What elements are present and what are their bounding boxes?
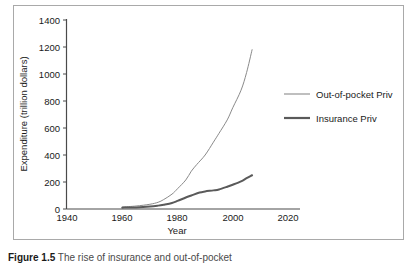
y-tick-label-1200: 1200 [39, 42, 60, 53]
y-tick-label-800: 800 [44, 96, 60, 107]
y-tick-label-600: 600 [44, 123, 60, 134]
x-axis-title: Year [167, 225, 186, 236]
x-tick-label-2000: 2000 [222, 212, 243, 223]
figure-caption-prefix: Figure 1.5 [8, 252, 55, 263]
legend-label-out-of-pocket-priv: Out-of-pocket Priv [316, 89, 393, 100]
series-line-out-of-pocket-priv [122, 50, 252, 207]
y-tick-label-1400: 1400 [39, 15, 60, 26]
y-tick-label-200: 200 [44, 177, 60, 188]
figure-caption-text: The rise of insurance and out-of-pocket [58, 252, 232, 263]
legend-label-insurance-priv: Insurance Priv [316, 113, 377, 124]
figure-caption: Figure 1.5 The rise of insurance and out… [8, 252, 408, 263]
x-tick-label-2020: 2020 [277, 212, 298, 223]
y-axis-title: Expenditure (trillion dollars) [18, 56, 29, 171]
figure-root: 1400 1200 1000 800 600 400 200 0 1940 19… [0, 0, 415, 263]
x-tick-label-1940: 1940 [56, 212, 77, 223]
line-chart: 1400 1200 1000 800 600 400 200 0 1940 19… [0, 0, 415, 263]
y-tick-label-1000: 1000 [39, 69, 60, 80]
series-line-insurance-priv [122, 175, 252, 207]
x-tick-label-1980: 1980 [166, 212, 187, 223]
legend: Out-of-pocket Priv Insurance Priv [284, 89, 393, 124]
y-tick-label-400: 400 [44, 150, 60, 161]
x-tick-label-1960: 1960 [111, 212, 132, 223]
